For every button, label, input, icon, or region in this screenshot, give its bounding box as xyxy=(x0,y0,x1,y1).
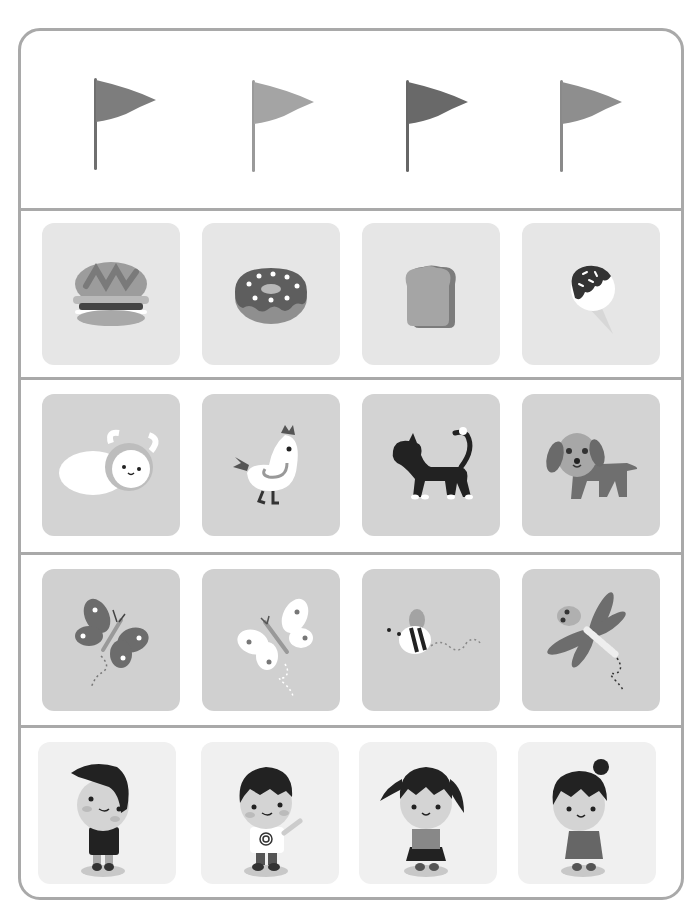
sheep-icon xyxy=(51,405,171,525)
chicken-tile[interactable]: Chicken xyxy=(202,394,340,536)
donut-icon xyxy=(211,234,331,354)
hamburger-icon xyxy=(51,234,171,354)
girl-pigtails-tile[interactable]: Girl with pigtails xyxy=(359,742,497,884)
cat-icon xyxy=(371,405,491,525)
flag-label: Flag 2 xyxy=(21,31,22,32)
worksheet-frame: Flag 1 Flag 2 Flag 3 Flag 4 Hamburger xyxy=(18,28,684,900)
bread-tile[interactable]: Bread xyxy=(362,223,500,365)
hamburger-tile[interactable]: Hamburger xyxy=(42,223,180,365)
flag-label: Flag 4 xyxy=(21,31,22,32)
dragonfly-icon xyxy=(531,580,651,700)
ice-cream-tile[interactable]: Ice cream xyxy=(522,223,660,365)
bee-icon xyxy=(371,580,491,700)
row-divider xyxy=(21,377,681,380)
flag-label: Flag 3 xyxy=(21,31,22,32)
flag-icon[interactable] xyxy=(91,76,161,176)
sheep-tile[interactable]: Sheep xyxy=(42,394,180,536)
row-divider xyxy=(21,725,681,728)
girl-icon xyxy=(527,743,647,883)
bee-tile[interactable]: Bee xyxy=(362,569,500,711)
flag-label: Flag 1 xyxy=(21,31,22,32)
bread-icon xyxy=(371,234,491,354)
row-divider xyxy=(21,208,681,211)
girl-icon xyxy=(368,743,488,883)
butterfly-tile[interactable]: Butterfly xyxy=(42,569,180,711)
chicken-icon xyxy=(211,405,331,525)
dog-icon xyxy=(531,405,651,525)
boy-icon xyxy=(210,743,330,883)
butterfly-icon xyxy=(211,580,331,700)
boy-spiral-tile[interactable]: Boy with spiral shirt xyxy=(201,742,339,884)
cat-tile[interactable]: Cat xyxy=(362,394,500,536)
dog-tile[interactable]: Dog xyxy=(522,394,660,536)
flag-icon[interactable] xyxy=(403,78,473,178)
row-divider xyxy=(21,552,681,555)
white-butterfly-tile[interactable]: White butterfly xyxy=(202,569,340,711)
flag-icon[interactable] xyxy=(557,78,627,178)
flag-icon[interactable] xyxy=(249,78,319,178)
dragonfly-tile[interactable]: Dragonfly xyxy=(522,569,660,711)
boy-icon xyxy=(47,743,167,883)
ice-cream-icon xyxy=(531,234,651,354)
butterfly-icon xyxy=(51,580,171,700)
girl-bun-tile[interactable]: Girl with bun xyxy=(518,742,656,884)
donut-tile[interactable]: Donut xyxy=(202,223,340,365)
boy-tile[interactable]: Boy xyxy=(38,742,176,884)
